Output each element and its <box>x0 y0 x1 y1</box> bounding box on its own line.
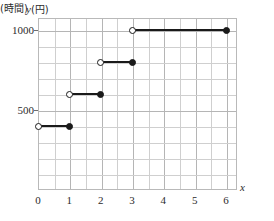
x-axis-tick-label: 1 <box>61 195 77 206</box>
gridline-horizontal <box>39 159 236 160</box>
step-segment <box>101 61 132 63</box>
y-axis-label: y(円) <box>26 4 49 15</box>
gridline-vertical <box>86 19 87 189</box>
chart-figure: y(円) x (時間) 50010000123456 <box>0 0 274 221</box>
gridline-vertical <box>164 19 165 189</box>
closed-endpoint-marker <box>97 91 104 98</box>
gridline-vertical <box>70 19 71 189</box>
closed-endpoint-marker <box>223 27 230 34</box>
gridline-vertical <box>149 19 150 189</box>
gridline-vertical <box>117 19 118 189</box>
x-axis-tick-label: 0 <box>30 195 46 206</box>
x-axis-variable: x <box>240 181 245 193</box>
gridline-horizontal <box>39 79 236 80</box>
gridline-vertical <box>211 19 212 189</box>
gridline-horizontal <box>39 63 236 64</box>
gridline-horizontal <box>39 175 236 176</box>
gridline-horizontal <box>39 111 236 112</box>
gridline-horizontal <box>39 47 236 48</box>
gridline-vertical <box>102 19 103 189</box>
open-endpoint-marker <box>97 59 104 66</box>
gridline-vertical <box>227 19 228 189</box>
x-axis-tick-label: 6 <box>218 195 234 206</box>
x-axis-tick-label: 5 <box>187 195 203 206</box>
y-axis-tick-mark <box>34 110 38 111</box>
gridline-horizontal <box>39 31 236 32</box>
x-axis-tick-label: 4 <box>155 195 171 206</box>
open-endpoint-marker <box>129 27 136 34</box>
gridline-vertical <box>55 19 56 189</box>
closed-endpoint-marker <box>129 59 136 66</box>
step-segment <box>38 125 69 127</box>
y-axis-tick-mark <box>34 30 38 31</box>
gridline-vertical <box>196 19 197 189</box>
open-endpoint-marker <box>35 123 42 130</box>
y-axis-tick-label: 1000 <box>2 25 34 36</box>
gridline-horizontal <box>39 143 236 144</box>
x-axis-tick-label: 3 <box>124 195 140 206</box>
y-axis-unit: (円) <box>31 4 49 15</box>
x-axis-tick-label: 2 <box>93 195 109 206</box>
closed-endpoint-marker <box>66 123 73 130</box>
gridline-vertical <box>133 19 134 189</box>
step-segment <box>132 29 226 31</box>
step-segment <box>69 93 100 95</box>
open-endpoint-marker <box>66 91 73 98</box>
y-axis-tick-label: 500 <box>2 105 34 116</box>
plot-area <box>38 18 237 190</box>
gridline-vertical <box>180 19 181 189</box>
x-axis-label: x <box>240 182 245 193</box>
